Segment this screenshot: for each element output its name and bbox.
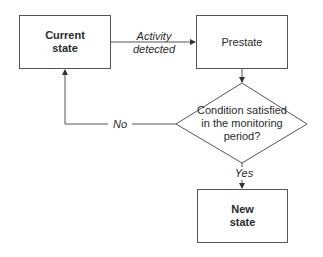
edge-no (65, 70, 176, 124)
flowchart-canvas: Current state Prestate Condition satisfi… (0, 0, 323, 257)
node-new-state-label: New state (230, 203, 256, 229)
node-new-state: New state (197, 189, 288, 243)
node-prestate: Prestate (196, 15, 288, 69)
node-current-state-label: Current state (45, 29, 85, 55)
edge-label-no: No (108, 118, 132, 131)
edge-label-activity-detected: Activity detected (132, 30, 176, 56)
node-condition-label: Condition satisfied in the monitoring pe… (186, 104, 298, 143)
node-current-state: Current state (19, 15, 111, 69)
edge-label-yes: Yes (232, 167, 256, 180)
node-prestate-label: Prestate (222, 36, 263, 49)
